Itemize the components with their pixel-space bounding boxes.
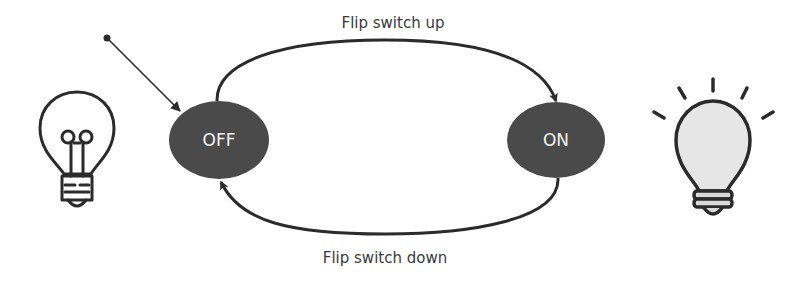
initial-arrow: [108, 39, 180, 111]
state-on-label: ON: [543, 130, 569, 150]
transition-flip-down: Flip switch down: [221, 178, 558, 267]
state-diagram: Flip switch up Flip switch down OFF ON: [0, 0, 807, 283]
lightbulb-off-icon: [40, 92, 114, 206]
state-off: OFF: [169, 101, 269, 179]
transition-label-down: Flip switch down: [323, 249, 447, 267]
initial-state-pointer: [104, 35, 181, 112]
light-ray: [654, 112, 664, 118]
light-ray: [679, 88, 685, 98]
state-off-label: OFF: [203, 130, 236, 150]
lightbulb-on-icon: [654, 79, 773, 214]
state-on: ON: [507, 102, 605, 178]
transition-flip-up: Flip switch up: [217, 14, 556, 101]
light-ray: [742, 88, 747, 98]
light-ray: [763, 112, 773, 118]
transition-label-up: Flip switch up: [342, 14, 445, 32]
